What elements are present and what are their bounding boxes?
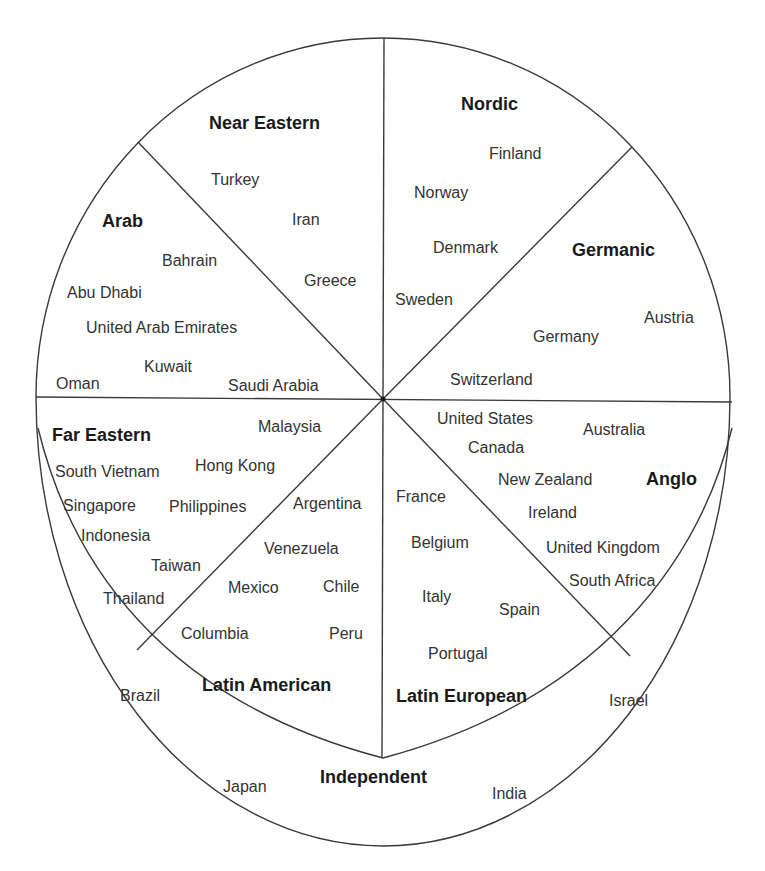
country-belgium: Belgium [411,534,469,552]
country-iran: Iran [292,211,320,229]
country-india: India [492,785,527,803]
country-israel: Israel [609,692,648,710]
cluster-independent-title: Independent [320,767,427,787]
country-abu-dhabi: Abu Dhabi [67,284,142,302]
country-new-zealand: New Zealand [498,471,592,489]
country-thailand: Thailand [103,590,164,608]
cluster-latin-european-title: Latin European [396,686,527,706]
country-bahrain: Bahrain [162,252,217,270]
country-denmark: Denmark [433,239,498,257]
country-canada: Canada [468,439,524,457]
cluster-far-eastern-title: Far Eastern [52,425,151,445]
country-france: France [396,488,446,506]
country-ireland: Ireland [528,504,577,522]
country-norway: Norway [414,184,468,202]
country-taiwan: Taiwan [151,557,201,575]
country-italy: Italy [422,588,451,606]
cluster-latin-american-title: Latin American [202,675,331,695]
country-hong-kong: Hong Kong [195,457,275,475]
country-sweden: Sweden [395,291,453,309]
country-finland: Finland [489,145,541,163]
country-united-kingdom: United Kingdom [546,539,660,557]
country-united-states: United States [437,410,533,428]
country-uae: United Arab Emirates [86,319,237,337]
country-south-africa: South Africa [569,572,655,590]
country-saudi-arabia: Saudi Arabia [228,377,319,395]
country-oman: Oman [56,375,100,393]
country-germany: Germany [533,328,599,346]
country-japan: Japan [223,778,267,796]
cluster-near-eastern-title: Near Eastern [209,113,320,133]
country-peru: Peru [329,625,363,643]
country-south-vietnam: South Vietnam [55,463,160,481]
country-venezuela: Venezuela [264,540,339,558]
country-austria: Austria [644,309,694,327]
cluster-germanic-title: Germanic [572,240,655,260]
country-indonesia: Indonesia [81,527,150,545]
country-spain: Spain [499,601,540,619]
cluster-anglo-title: Anglo [646,469,697,489]
country-argentina: Argentina [293,495,362,513]
country-chile: Chile [323,578,359,596]
country-portugal: Portugal [428,645,488,663]
country-brazil: Brazil [120,687,160,705]
country-mexico: Mexico [228,579,279,597]
country-australia: Australia [583,421,645,439]
center-point [381,397,386,402]
country-columbia: Columbia [181,625,249,643]
country-kuwait: Kuwait [144,358,192,376]
country-greece: Greece [304,272,356,290]
cluster-nordic-title: Nordic [461,94,518,114]
country-malaysia: Malaysia [258,418,321,436]
country-singapore: Singapore [63,497,136,515]
country-switzerland: Switzerland [450,371,533,389]
country-philippines: Philippines [169,498,246,516]
country-turkey: Turkey [211,171,259,189]
cluster-arab-title: Arab [102,211,143,231]
divider-far-eastern-latin-american [137,399,383,650]
